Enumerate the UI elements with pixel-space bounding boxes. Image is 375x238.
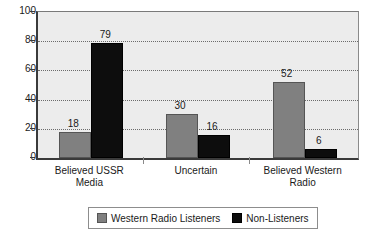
legend-swatch-icon [232, 213, 242, 223]
bar [91, 43, 123, 158]
x-axis-label: Uncertain [143, 165, 250, 177]
gridline [38, 100, 358, 101]
bar [59, 132, 91, 158]
legend-swatch-icon [97, 213, 107, 223]
bar [305, 149, 337, 158]
bar-value-label: 6 [303, 135, 335, 146]
gridline [38, 70, 358, 71]
x-label-line: Believed Western [249, 165, 356, 177]
bar-chart: 020406080100 1879Believed USSRMedia3016U… [0, 0, 375, 238]
bar-value-label: 30 [164, 100, 196, 111]
x-label-line: Believed USSR [36, 165, 143, 177]
x-axis-tick [249, 157, 250, 164]
legend-item[interactable]: Non-Listeners [232, 213, 308, 224]
legend-item[interactable]: Western Radio Listeners [97, 213, 220, 224]
x-axis-label: Believed WesternRadio [249, 165, 356, 189]
bar-value-label: 52 [271, 68, 303, 79]
x-label-line: Uncertain [143, 165, 250, 177]
y-tick-mark [30, 157, 35, 158]
x-label-line: Radio [249, 177, 356, 189]
bar [273, 82, 305, 158]
bar-value-label: 18 [57, 118, 89, 129]
legend-label: Western Radio Listeners [111, 213, 220, 224]
chart-legend: Western Radio ListenersNon-Listeners [88, 207, 318, 229]
bar [166, 114, 198, 158]
y-tick-mark [30, 99, 35, 100]
bar-value-label: 79 [89, 29, 121, 40]
bar-value-label: 16 [196, 121, 228, 132]
x-label-line: Media [36, 177, 143, 189]
y-tick-mark [30, 40, 35, 41]
y-tick-mark [30, 11, 35, 12]
y-tick-mark [30, 128, 35, 129]
x-axis-tick [143, 157, 144, 164]
legend-label: Non-Listeners [246, 213, 308, 224]
y-tick-mark [30, 69, 35, 70]
gridline [38, 41, 358, 42]
y-axis: 020406080100 [0, 0, 36, 238]
x-axis-label: Believed USSRMedia [36, 165, 143, 189]
bar [198, 135, 230, 158]
